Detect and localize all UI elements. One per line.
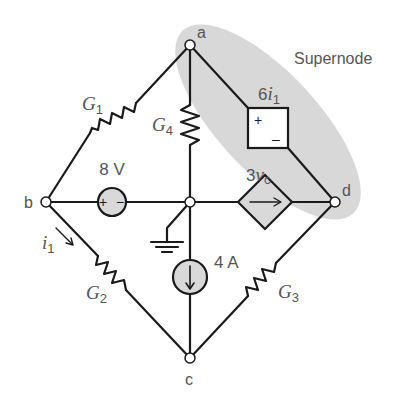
- dependent-voltage-source: + –: [248, 108, 288, 148]
- node-d: [330, 197, 340, 207]
- node-d-label: d: [342, 182, 351, 199]
- dependent-voltage-plus: +: [254, 112, 262, 128]
- node-a: [185, 40, 195, 50]
- resistor-g4-label: G4: [152, 114, 173, 138]
- current-source-4a: [173, 260, 207, 294]
- dependent-voltage-minus: –: [272, 131, 280, 147]
- ground-symbol: [151, 202, 190, 252]
- current-source-label: 4 A: [214, 253, 239, 272]
- node-center: [185, 197, 195, 207]
- voltage-source-minus: −: [116, 194, 124, 210]
- current-i1-arrow: [56, 228, 73, 245]
- circuit-diagram: + − 8 V 4 A 3vc + – 6i1 i1 G1 G4 G2: [0, 0, 403, 407]
- voltage-source-label: 8 V: [99, 160, 125, 179]
- resistor-g3-label: G3: [278, 281, 299, 305]
- node-b-label: b: [24, 194, 33, 211]
- node-c: [185, 353, 195, 363]
- node-b: [41, 197, 51, 207]
- resistor-g2-label: G2: [86, 282, 107, 306]
- voltage-source-plus: +: [99, 194, 107, 210]
- current-i1-label: i1: [42, 232, 55, 256]
- resistor-g1-label: G1: [82, 93, 103, 117]
- supernode-label: Supernode: [294, 50, 372, 67]
- node-c-label: c: [185, 371, 193, 388]
- node-a-label: a: [197, 24, 206, 41]
- voltage-source-8v: + −: [98, 188, 126, 216]
